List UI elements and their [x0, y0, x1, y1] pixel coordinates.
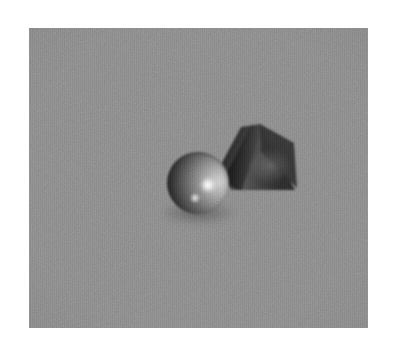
objects-layer — [29, 28, 368, 328]
photo-plate — [29, 28, 368, 328]
sphere-object — [167, 152, 229, 214]
image-canvas: A dark glossy sphere with two bright spe… — [0, 0, 395, 344]
cone-sheen — [233, 138, 293, 186]
